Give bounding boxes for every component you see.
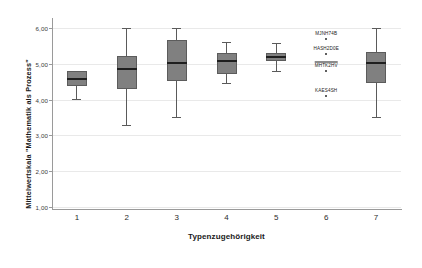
outlier-point xyxy=(325,95,327,97)
x-tick-label: 6 xyxy=(306,213,346,222)
whisker-upper xyxy=(376,28,377,52)
box-iqr xyxy=(167,40,187,81)
whisker-cap-lower xyxy=(122,125,131,126)
outlier-label: MHTK2HV xyxy=(315,62,338,67)
x-axis-line xyxy=(52,209,402,210)
whisker-upper xyxy=(276,43,277,53)
median-line xyxy=(217,60,237,62)
box-plot-4 xyxy=(217,0,237,186)
whisker-lower xyxy=(226,74,227,83)
x-tick-label: 4 xyxy=(207,213,247,222)
box-iqr xyxy=(366,52,386,82)
box-plot-2 xyxy=(117,0,137,186)
outlier-point xyxy=(325,70,327,72)
whisker-upper xyxy=(126,28,127,56)
whisker-cap-upper xyxy=(372,28,381,29)
whisker-cap-upper xyxy=(122,28,131,29)
median-line xyxy=(67,78,87,80)
whisker-cap-upper xyxy=(272,43,281,44)
x-tick-label: 3 xyxy=(157,213,197,222)
whisker-cap-lower xyxy=(172,117,181,118)
whisker-cap-upper xyxy=(172,28,181,29)
x-tick-label: 7 xyxy=(356,213,396,222)
median-line xyxy=(366,62,386,64)
boxplot-chart: 6,005,004,003,002,001,00 Mittelwertskala… xyxy=(0,0,422,268)
box-iqr xyxy=(217,53,237,74)
whisker-cap-lower xyxy=(272,71,281,72)
box-plot-1 xyxy=(67,0,87,186)
box-plot-3 xyxy=(167,0,187,186)
whisker-lower xyxy=(276,61,277,71)
gridline xyxy=(52,207,401,208)
median-line xyxy=(117,68,137,70)
x-tick-label: 5 xyxy=(256,213,296,222)
x-tick-label: 2 xyxy=(107,213,147,222)
x-axis-title: Typenzugehörigkeit xyxy=(52,232,401,241)
outlier-label: MJNH74B xyxy=(315,31,337,36)
median-line xyxy=(167,62,187,64)
y-tick-label: 6,00 xyxy=(8,25,48,32)
whisker-cap-upper xyxy=(222,42,231,43)
median-line xyxy=(266,56,286,58)
box-iqr xyxy=(117,56,137,89)
whisker-cap-lower xyxy=(72,99,81,100)
whisker-cap-lower xyxy=(372,117,381,118)
whisker-cap-lower xyxy=(222,83,231,84)
y-axis-title: Mittelwertskala "Mathematik als Prozess" xyxy=(24,34,33,234)
x-tick-label: 1 xyxy=(57,213,97,222)
whisker-lower xyxy=(76,86,77,99)
box-plot-7 xyxy=(366,0,386,186)
whisker-lower xyxy=(176,81,177,117)
whisker-upper xyxy=(226,42,227,53)
whisker-lower xyxy=(376,83,377,117)
outlier-label: KAES4SH xyxy=(315,87,337,92)
y-axis-line xyxy=(52,18,53,210)
whisker-lower xyxy=(126,89,127,125)
box-plot-5 xyxy=(266,0,286,186)
outlier-label: HASH2D0E xyxy=(313,46,338,51)
whisker-upper xyxy=(176,28,177,39)
